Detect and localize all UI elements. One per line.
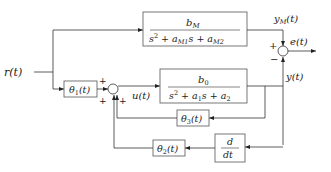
error-summing-junction [278,46,288,56]
input-summing-junction [108,84,118,94]
error-sum-minus-sign: − [270,54,278,65]
error-sum-plus-sign: + [269,40,277,51]
svg-text:d: d [227,136,233,147]
reference-signal-label: r(t) [4,66,22,79]
plant-block: b0 s2 + a1s + a2 [160,69,247,103]
control-signal-label: u(t) [132,90,150,101]
model-output-arrow [247,30,283,46]
theta1-block: θ1(t) [64,81,97,97]
input-sum-plus-right: + [119,96,127,106]
model-output-label: yM(t) [273,13,298,26]
theta3-block: θ3(t) [177,110,209,126]
input-sum-plus-top: + [99,76,107,86]
derivative-block: d dt [215,134,245,162]
reference-model-block: bM s2 + aM1s + aM2 [143,12,247,46]
error-signal-label: e(t) [290,36,308,47]
svg-text:dt: dt [223,149,233,160]
theta2-block: θ2(t) [153,140,185,156]
block-diagram: r(t) bM s2 + aM1s + aM2 yM(t) + − e(t) θ… [0,0,331,172]
input-sum-plus-left: + [99,96,107,106]
plant-output-label: y(t) [285,71,304,82]
